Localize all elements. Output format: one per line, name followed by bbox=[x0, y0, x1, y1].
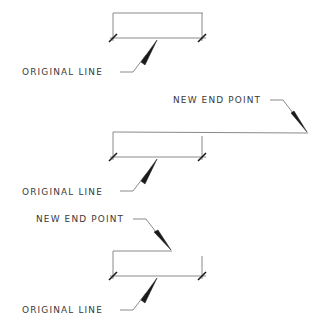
arrowhead-icon bbox=[291, 111, 307, 132]
diagram-canvas bbox=[0, 0, 321, 329]
arrowhead-icon bbox=[141, 40, 157, 65]
arrowhead-icon bbox=[141, 278, 157, 303]
leader-line bbox=[120, 293, 146, 310]
original-line-label-3: ORIGINAL LINE bbox=[22, 305, 103, 315]
leader-line bbox=[120, 55, 146, 72]
new-end-point-label-2: NEW END POINT bbox=[36, 214, 124, 224]
original-line-label-1: ORIGINAL LINE bbox=[22, 67, 103, 77]
arrowhead-icon bbox=[141, 159, 157, 184]
figure-1 bbox=[109, 13, 206, 72]
new-end-point-label-1: NEW END POINT bbox=[173, 95, 261, 105]
extended-line-top bbox=[113, 132, 308, 133]
original-line-label-2: ORIGINAL LINE bbox=[22, 187, 103, 197]
arrowhead-icon bbox=[154, 230, 171, 250]
figure-3 bbox=[109, 219, 206, 310]
figure-2 bbox=[109, 100, 308, 191]
leader-line bbox=[120, 174, 146, 191]
